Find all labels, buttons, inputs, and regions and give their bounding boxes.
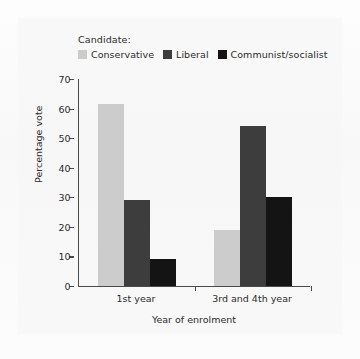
legend-swatch-icon [163, 50, 172, 59]
y-axis-tick-label: 50 [58, 133, 70, 144]
legend-title: Candidate: [78, 34, 353, 45]
y-axis-tick-label: 10 [58, 251, 70, 262]
bar-series-container [79, 79, 310, 286]
legend-items: ConservativeLiberalCommunist/socialist [78, 49, 360, 60]
y-axis-tick-label: 0 [64, 281, 70, 292]
legend-item: Conservative [78, 49, 154, 60]
legend-item-label: Liberal [176, 49, 209, 60]
chart-legend: Candidate: ConservativeLiberalCommunist/… [78, 34, 353, 60]
plot-area: 010203040506070 1st year3rd and 4th year [78, 79, 310, 287]
y-axis-tick-label: 70 [58, 74, 70, 85]
x-axis-tick-mark [195, 286, 196, 291]
x-axis-category-label: 3rd and 4th year [212, 293, 292, 304]
y-axis-tick-label: 60 [58, 103, 70, 114]
y-axis-tick-label: 30 [58, 192, 70, 203]
legend-item-label: Conservative [91, 49, 154, 60]
legend-swatch-icon [218, 50, 227, 59]
y-axis-tick-label: 40 [58, 162, 70, 173]
bar [150, 259, 176, 286]
bar [124, 200, 150, 286]
y-axis-tick-label: 20 [58, 221, 70, 232]
bar-chart-figure: Candidate: ConservativeLiberalCommunist/… [0, 0, 360, 359]
bar [98, 104, 124, 286]
legend-item-label: Communist/socialist [231, 49, 328, 60]
bar [240, 126, 266, 286]
legend-item: Communist/socialist [218, 49, 328, 60]
x-axis-title: Year of enrolment [78, 314, 310, 325]
bar [214, 230, 240, 286]
legend-swatch-icon [78, 50, 87, 59]
x-axis-tick-mark [311, 286, 312, 291]
bar [266, 197, 292, 286]
legend-item: Liberal [163, 49, 209, 60]
y-axis-title: Percentage vote [33, 106, 44, 183]
x-axis-category-label: 1st year [117, 293, 156, 304]
